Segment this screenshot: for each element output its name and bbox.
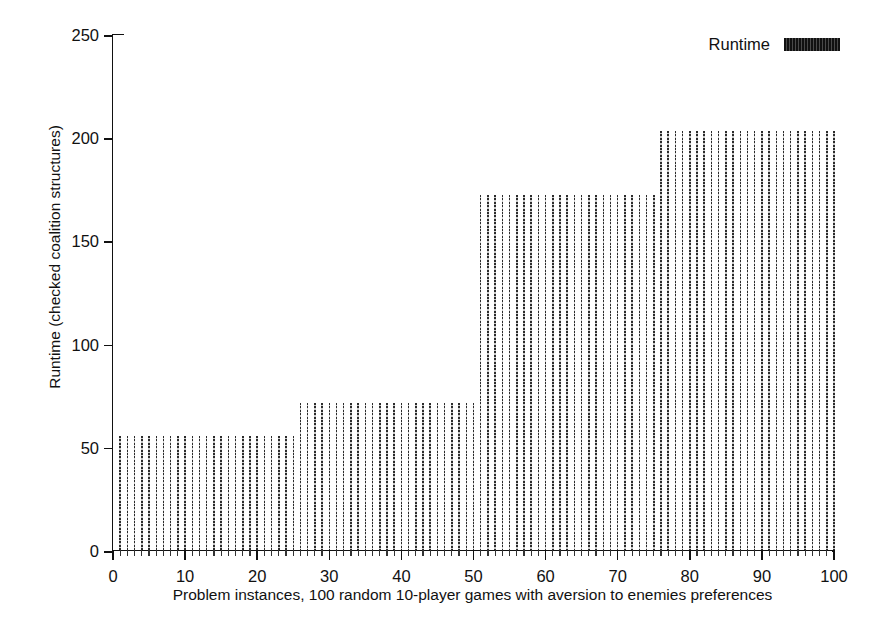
bar [790,131,792,550]
bar [458,403,460,550]
x-tick-minor [668,550,669,556]
x-tick-minor [675,550,676,556]
bar [725,131,727,550]
x-tick-minor [797,550,798,556]
x-tick-minor [336,550,337,556]
x-tick-minor [624,550,625,556]
bar [163,436,165,550]
x-tick-label: 60 [536,568,554,585]
x-tick-minor [826,550,827,556]
x-tick-label: 100 [820,568,848,585]
x-tick-minor [206,550,207,556]
bar [343,403,345,550]
bar [422,403,424,550]
x-tick-minor [487,550,488,556]
bar [278,436,280,550]
bar [502,195,504,550]
bar [660,131,662,550]
x-tick-minor [170,550,171,556]
x-tick-label: 80 [681,568,699,585]
bar [689,131,691,550]
bar [393,403,395,550]
x-tick-minor [249,550,250,556]
y-tick-mark [104,35,113,37]
x-tick-minor [711,550,712,556]
bar [206,436,208,550]
x-tick-minor [696,550,697,556]
y-tick-mark [104,138,113,140]
x-tick-minor [480,550,481,556]
x-tick-minor [264,550,265,556]
x-tick-minor [120,550,121,556]
x-tick-minor [422,550,423,556]
plot-area: 050100150200250 0102030405060708090100 [112,35,833,551]
x-tick-minor [603,550,604,556]
bar [213,436,215,550]
x-tick-minor [271,550,272,556]
x-tick-minor [531,550,532,556]
chart-figure: 050100150200250 0102030405060708090100 P… [0,0,876,626]
bar [357,403,359,550]
bar [127,436,129,550]
bar [545,195,547,550]
x-tick-minor [379,550,380,556]
bar [516,195,518,550]
legend: Runtime [709,36,840,53]
x-tick-minor [235,550,236,556]
x-tick-minor [538,550,539,556]
bar [228,436,230,550]
bar [768,131,770,550]
x-tick-minor [365,550,366,556]
y-axis-title: Runtime (checked coalition structures) [46,0,64,517]
bar [480,195,482,550]
bar [336,403,338,550]
x-tick-label: 20 [248,568,266,585]
x-tick-minor [242,550,243,556]
bar [581,195,583,550]
bar [523,195,525,550]
x-tick-minor [394,550,395,556]
bar [451,403,453,550]
x-tick-minor [458,550,459,556]
x-tick-minor [783,550,784,556]
bar [386,403,388,550]
y-tick-mark [104,345,113,347]
x-tick-minor [307,550,308,556]
x-tick-minor [278,550,279,556]
bar [603,195,605,550]
x-tick-minor [437,550,438,556]
x-tick-major [329,550,331,560]
bar [783,131,785,550]
y-tick-label: 250 [71,27,99,44]
x-tick-label: 10 [176,568,194,585]
bar [530,195,532,550]
x-tick-label: 70 [609,568,627,585]
bar [408,403,410,550]
bar [696,131,698,550]
x-tick-minor [740,550,741,556]
bar [747,131,749,550]
x-tick-minor [559,550,560,556]
x-tick-minor [747,550,748,556]
x-tick-label: 50 [464,568,482,585]
bar [776,131,778,550]
bar [559,195,561,550]
y-tick-label: 150 [71,233,99,250]
x-tick-minor [516,550,517,556]
x-tick-minor [199,550,200,556]
bar [314,403,316,550]
x-tick-minor [610,550,611,556]
x-tick-minor [718,550,719,556]
x-tick-minor [632,550,633,556]
x-tick-minor [156,550,157,556]
x-tick-minor [444,550,445,556]
bar [639,195,641,550]
x-tick-minor [805,550,806,556]
x-tick-label: 40 [392,568,410,585]
x-tick-minor [588,550,589,556]
bar [264,436,266,550]
bar [437,403,439,550]
y-tick-label: 200 [71,130,99,147]
x-tick-minor [509,550,510,556]
bar [300,403,302,550]
